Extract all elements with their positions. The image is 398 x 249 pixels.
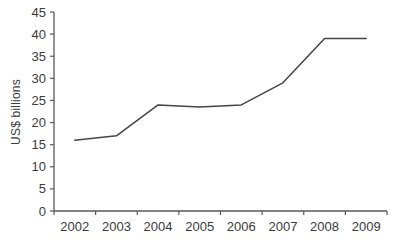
x-tick-label: 2004 bbox=[144, 219, 173, 234]
y-tick-label: 40 bbox=[32, 27, 46, 42]
x-tick-label: 2009 bbox=[352, 219, 381, 234]
y-tick-label: 45 bbox=[32, 5, 46, 20]
x-tick-label: 2007 bbox=[268, 219, 297, 234]
line-chart: 0510152025303540452002200320042005200620… bbox=[0, 0, 398, 249]
x-tick-label: 2002 bbox=[60, 219, 89, 234]
data-series-line bbox=[75, 39, 366, 141]
line-chart-figure: US$ billions 051015202530354045200220032… bbox=[0, 0, 398, 249]
y-tick-label: 35 bbox=[32, 49, 46, 64]
y-tick-label: 10 bbox=[32, 159, 46, 174]
y-tick-label: 30 bbox=[32, 71, 46, 86]
x-tick-label: 2005 bbox=[185, 219, 214, 234]
x-tick-label: 2006 bbox=[227, 219, 256, 234]
y-tick-label: 15 bbox=[32, 137, 46, 152]
x-tick-label: 2003 bbox=[102, 219, 131, 234]
y-tick-label: 20 bbox=[32, 115, 46, 130]
y-tick-label: 25 bbox=[32, 93, 46, 108]
x-tick-label: 2008 bbox=[310, 219, 339, 234]
y-axis-title: US$ billions bbox=[9, 79, 23, 145]
y-tick-label: 0 bbox=[39, 204, 46, 219]
y-tick-label: 5 bbox=[39, 181, 46, 196]
